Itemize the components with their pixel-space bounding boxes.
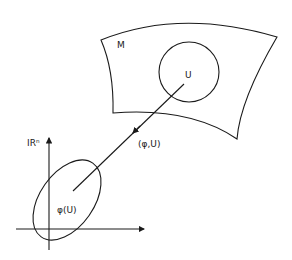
chart-map-line <box>73 84 184 191</box>
open-set-label: U <box>185 70 192 80</box>
chart-arrow <box>133 126 140 133</box>
image-label: φ(U) <box>57 205 77 215</box>
space-label: IRⁿ <box>27 138 40 148</box>
chart-diagram: M U (φ,U) IRⁿ φ(U) <box>0 0 292 260</box>
chart-label: (φ,U) <box>138 139 160 149</box>
manifold-outline <box>101 23 277 139</box>
manifold-label: M <box>117 40 125 50</box>
image-ellipse <box>19 148 115 253</box>
